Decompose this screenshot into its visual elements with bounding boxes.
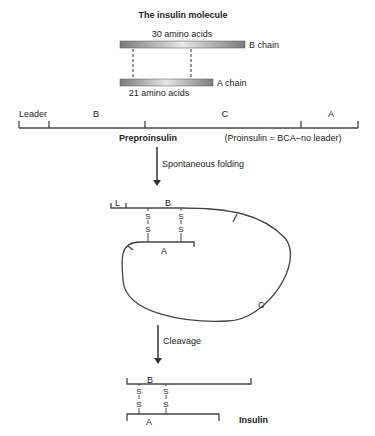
insulin-label: Insulin — [239, 415, 268, 425]
arrow-head-2 — [154, 358, 162, 364]
insulin-molecule-section: The insulin molecule 30 amino acids B ch… — [120, 10, 279, 98]
a-chain-count: 21 amino acids — [129, 88, 190, 98]
insulin-a-chain — [127, 414, 219, 421]
sulfur-label: S — [136, 387, 141, 396]
folded-disulfide-2: S S — [177, 208, 185, 242]
sulfur-label: S — [145, 225, 150, 234]
sulfur-label: S — [136, 400, 141, 409]
cleavage-arrow: Cleavage — [154, 325, 201, 364]
a-chain-bar — [120, 79, 213, 86]
segment-c-label: C — [222, 109, 229, 119]
folding-label: Spontaneous folding — [162, 159, 244, 169]
segment-leader-label: Leader — [19, 109, 47, 119]
cleavage-tick-c-a — [128, 246, 133, 250]
preproinsulin-section: Leader B C A Preproinsulin (Proinsulin =… — [19, 109, 358, 143]
folded-c-label: C — [258, 300, 265, 310]
folded-leader-label: L — [115, 198, 120, 208]
sulfur-label: S — [178, 212, 183, 221]
cleavage-tick-b-c — [233, 214, 237, 222]
mature-insulin: B S S S S A Insulin — [127, 375, 268, 427]
folded-proinsulin: L B S S S S A C — [111, 198, 291, 321]
insulin-a-label: A — [146, 417, 152, 427]
b-chain-bar — [120, 41, 245, 48]
cleavage-label: Cleavage — [163, 336, 201, 346]
folded-b-label: B — [165, 198, 171, 208]
sulfur-label: S — [178, 225, 183, 234]
b-chain-count: 30 amino acids — [152, 29, 213, 39]
molecule-title: The insulin molecule — [138, 10, 227, 20]
arrow-head-1 — [153, 180, 161, 186]
folded-a-label: A — [161, 246, 167, 256]
insulin-b-chain — [127, 378, 251, 384]
insulin-diagram: The insulin molecule 30 amino acids B ch… — [0, 0, 375, 436]
b-chain-label: B chain — [249, 40, 279, 50]
sulfur-label: S — [163, 387, 168, 396]
sulfur-label: S — [145, 212, 150, 221]
a-chain-label: A chain — [217, 78, 247, 88]
folding-arrow: Spontaneous folding — [153, 147, 244, 186]
proinsulin-note: (Proinsulin = BCA–no leader) — [225, 133, 342, 143]
preproinsulin-label: Preproinsulin — [119, 133, 177, 143]
sulfur-label: S — [163, 400, 168, 409]
insulin-disulfide-1: S S — [135, 384, 143, 414]
folded-disulfide-1: S S — [144, 208, 152, 242]
segment-b-label: B — [93, 109, 99, 119]
insulin-disulfide-2: S S — [162, 384, 170, 414]
segment-a-label: A — [328, 109, 334, 119]
